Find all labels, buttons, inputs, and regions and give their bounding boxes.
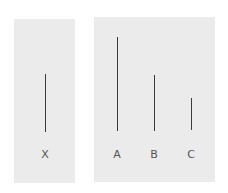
line-a xyxy=(117,37,119,131)
label-c: C xyxy=(181,148,201,161)
label-x: X xyxy=(35,148,55,161)
label-b: B xyxy=(144,148,164,161)
line-c xyxy=(191,98,193,130)
line-b xyxy=(154,75,156,131)
line-x xyxy=(45,74,47,132)
label-a: A xyxy=(107,148,127,161)
